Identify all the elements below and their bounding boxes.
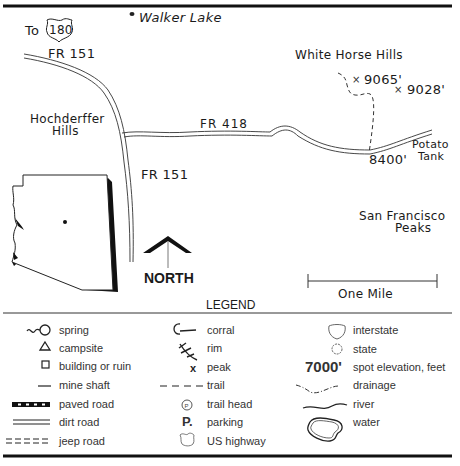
map-canvas: × × xyxy=(0,0,460,466)
elevation-9028-label: 9028' xyxy=(407,83,445,96)
corral-icon xyxy=(174,324,196,334)
elevation-8400-label: 8400' xyxy=(369,153,407,166)
fr418-label: FR 418 xyxy=(200,118,248,131)
elevation-9065-label: 9065' xyxy=(364,73,402,86)
svg-text:P: P xyxy=(185,403,189,409)
walker-lake-label: Walker Lake xyxy=(139,11,222,24)
dirt-road-icon xyxy=(13,420,50,424)
legend-item-drainage: drainage xyxy=(353,379,396,391)
peak-icon: x xyxy=(190,362,197,374)
legend-item-trail-head: trail head xyxy=(207,398,252,410)
peak-9065-marker: × xyxy=(352,74,360,85)
river-icon xyxy=(303,404,347,409)
potato-tank-label-line2: Tank xyxy=(418,150,444,163)
scale-label: One Mile xyxy=(338,288,393,301)
parking-icon: P. xyxy=(182,414,193,429)
legend-item-parking: parking xyxy=(207,416,243,428)
building-icon xyxy=(42,361,49,368)
fr151-bottom-label: FR 151 xyxy=(141,168,188,181)
highway-prefix-label: To xyxy=(25,24,39,37)
rim-icon xyxy=(179,343,197,360)
legend-item-peak: peak xyxy=(207,361,231,373)
north-label: NORTH xyxy=(144,270,194,286)
fr151-top-label: FR 151 xyxy=(48,47,95,60)
interstate-icon xyxy=(329,325,345,340)
legend-item-dirt-road: dirt road xyxy=(59,416,99,428)
walker-lake-marker xyxy=(130,12,135,16)
legend-item-campsite: campsite xyxy=(59,342,103,354)
legend-item-jeep-road: jeep road xyxy=(59,435,105,447)
legend-item-water: water xyxy=(353,416,380,428)
san-francisco-label-line2: Peaks xyxy=(395,222,431,235)
spot-elevation-icon: 7000' xyxy=(305,358,342,375)
hochderffer-label-line2: Hills xyxy=(52,125,79,138)
scale-bar xyxy=(308,274,437,288)
paved-road-icon xyxy=(12,402,50,407)
spring-icon xyxy=(27,325,50,335)
legend-item-state: state xyxy=(353,343,377,355)
highway-number-label: 180 xyxy=(49,24,73,37)
legend-item-river: river xyxy=(353,398,374,410)
legend-item-rim: rim xyxy=(207,342,222,354)
state-icon xyxy=(332,344,342,354)
white-horse-hills-label: White Horse Hills xyxy=(295,49,403,62)
legend-item-spring: spring xyxy=(59,324,89,336)
legend-item-trail: trail xyxy=(207,379,225,391)
legend-item-corral: corral xyxy=(207,324,235,336)
north-arrow xyxy=(143,236,192,268)
legend-item-interstate: interstate xyxy=(353,324,398,336)
jeep-road-icon xyxy=(6,439,50,443)
water-icon xyxy=(308,418,342,441)
us-highway-icon xyxy=(180,433,194,446)
legend-item-building: building or ruin xyxy=(59,360,131,372)
fr418-road xyxy=(122,126,432,154)
legend-item-mine-shaft: mine shaft xyxy=(59,379,110,391)
legend-item-us-highway: US highway xyxy=(207,435,266,447)
trail-head-icon: P xyxy=(182,400,192,410)
legend-item-spot-elevation: spot elevation, feet xyxy=(353,361,445,373)
legend-title: LEGEND xyxy=(206,298,255,312)
drainage-icon xyxy=(296,385,339,393)
campsite-icon xyxy=(40,342,50,350)
legend-item-paved-road: paved road xyxy=(59,398,114,410)
arizona-inset xyxy=(12,175,118,292)
